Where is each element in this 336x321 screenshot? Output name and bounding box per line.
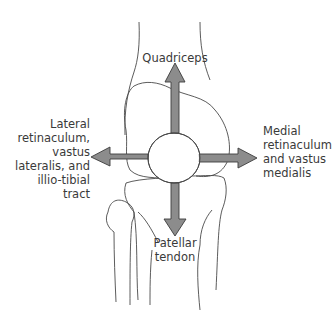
label-lateral-line: lateralis, and bbox=[10, 159, 90, 173]
label-medial-line: Medial bbox=[263, 124, 335, 138]
label-lateral-line: retinaculum, bbox=[10, 131, 90, 145]
label-medial-line: medialis bbox=[263, 166, 335, 180]
arrow-left-lateral bbox=[91, 147, 148, 166]
label-lateral-line: illio-tibial tract bbox=[10, 173, 90, 201]
femur-outline bbox=[125, 22, 139, 135]
label-medial: Medial retinaculum and vastus medialis bbox=[263, 124, 335, 180]
fibula-outline bbox=[108, 200, 134, 305]
label-patellar-line: tendon bbox=[145, 250, 205, 264]
label-quadriceps: Quadriceps bbox=[140, 51, 210, 65]
label-lateral: Lateral retinaculum, vastus lateralis, a… bbox=[10, 117, 90, 201]
label-lateral-line: Lateral bbox=[10, 117, 90, 131]
label-medial-line: retinaculum bbox=[263, 138, 335, 152]
arrow-right-medial bbox=[199, 148, 257, 168]
arrow-down-patellar-tendon bbox=[164, 183, 186, 236]
label-lateral-line: vastus bbox=[10, 145, 90, 159]
label-medial-line: and vastus bbox=[263, 152, 335, 166]
arrow-up-quadriceps bbox=[165, 63, 185, 133]
label-patellar-line: Patellar bbox=[145, 236, 205, 250]
label-patellar-tendon: Patellar tendon bbox=[145, 236, 205, 264]
